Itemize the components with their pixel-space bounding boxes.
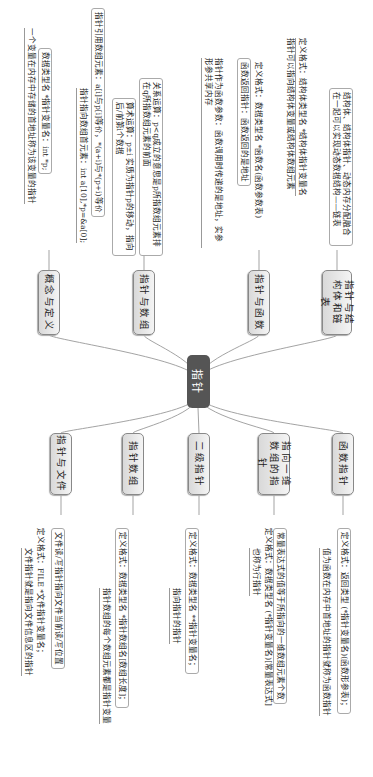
branch-concept-definition[interactable]: 概念与定义	[38, 270, 60, 335]
branch-pointer-array[interactable]: 指针与数组	[133, 270, 155, 335]
leaf-text: 指针指向数组首元素：int a[10],*p=&a[0];	[76, 88, 88, 243]
branch-function-pointer[interactable]: 函数指针	[332, 433, 354, 495]
leaf-text: 常量表达式的值等于所指向的一维数组元素个数	[273, 528, 287, 704]
branch-pointer-to-1d-array[interactable]: 指向一维数组的指针	[258, 433, 290, 495]
leaf-text: 函数返回指针：函数返回的是地址	[237, 58, 251, 186]
branch-pointer-struct-list[interactable]: 指针与结构体和链表	[322, 270, 352, 335]
leaf-text: 算术运算：p±i 实质为指针p的移动，指向后/前第i个数据	[112, 98, 136, 256]
mind-map-canvas: 指针 概念与定义 指针与数组 指针与函数 指针与结构体和链表 指针与文件 指针数…	[0, 0, 373, 777]
leaf-text: 指针可以指向结构体变量或结构体数组元素	[285, 38, 295, 190]
branch-pointer-function[interactable]: 指针与函数	[248, 270, 270, 335]
leaf-text: 指向指针的指针	[169, 588, 181, 644]
leaf-text: 指针引用数组元素：a[i]与p[i]等价，*(a+i)与*(p+i)等价	[91, 8, 105, 217]
leaf-text: 指针数组的每个数组元素都是指针变量	[99, 588, 111, 724]
leaf-text: 文件读/写指针指向文件当前读/写位置	[51, 528, 65, 669]
leaf-text: 定义格式：数据类型名 **指针变量名；	[185, 528, 199, 674]
leaf-text: 定义格式：数据类型名 *函数名(函数参数表)	[253, 62, 263, 218]
leaf-text: 关系运算：p<q成立的意思是p所指数组元素排在q所指数组元素的前面	[139, 78, 163, 256]
leaf-text: 一个变量在内存中存储的首地址称为该变量的指针	[24, 28, 36, 204]
leaf-text: 定义格式：数据类型名 *指针数组名[数组长度]；	[115, 528, 129, 708]
leaf-text: 指针作为函数参数：函数调用时传递的是地址，实参形参共享内存	[201, 58, 223, 248]
leaf-text: 定义格式：返回类型 (*指针变量名)(函数形参表)；	[337, 528, 351, 714]
leaf-text: 结构体、结构体指针、动态内存分配融合在一起可以实现动态数据结构——链表	[329, 88, 353, 246]
branch-pointer-file[interactable]: 指针与文件	[50, 433, 72, 495]
branch-pointer-array-of-pointers[interactable]: 指针数组	[122, 433, 144, 495]
leaf-text: 也称为行指针	[249, 548, 261, 596]
leaf-text: 定义格式：结构体类型名 *结构体指针变量名	[295, 38, 307, 196]
central-node[interactable]: 指针	[187, 355, 210, 408]
leaf-text: 文件指针就是指向文件信息区的指针	[21, 548, 33, 676]
leaf-text: 定义格式：数据类型名 (*指针变量名)[常量表达式]	[263, 528, 273, 706]
leaf-text: 定义格式：FILE *文件指针变量名；	[35, 528, 45, 657]
leaf-text: 数据类型名 *指针变量名：int *p;	[38, 48, 52, 174]
branch-double-pointer[interactable]: 二级指针	[188, 433, 210, 495]
leaf-text: 值为函数在内存中首地址的指针就称为函数指针	[319, 548, 331, 716]
